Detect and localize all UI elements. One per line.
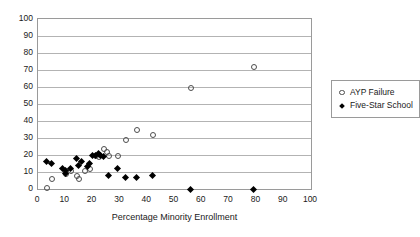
legend-item-label: AYP Failure xyxy=(350,88,395,97)
data-point xyxy=(122,174,129,181)
open-circle-icon xyxy=(337,90,347,96)
scatter-chart: 0102030405060708090100 01020304050607080… xyxy=(0,0,420,237)
y-axis-tick-label: 70 xyxy=(3,65,33,74)
data-point xyxy=(101,146,107,152)
y-axis-tick-label: 40 xyxy=(3,116,33,125)
data-point xyxy=(250,185,257,192)
gridline xyxy=(38,172,311,173)
y-axis-tick-label: 50 xyxy=(3,99,33,108)
y-axis-tick-label: 100 xyxy=(3,14,33,23)
gridline xyxy=(38,121,311,122)
plot-area xyxy=(37,18,312,190)
data-point xyxy=(74,173,80,179)
data-point xyxy=(76,176,82,182)
legend-item-label: Five-Star School xyxy=(350,101,413,110)
y-axis-tick-label: 80 xyxy=(3,48,33,57)
legend-item-five-star-school: Five-Star School xyxy=(337,99,413,112)
y-axis-tick-label: 0 xyxy=(3,184,33,193)
filled-diamond-icon xyxy=(337,104,347,108)
data-point xyxy=(75,162,82,169)
gridline xyxy=(38,104,311,105)
data-point xyxy=(134,127,140,133)
y-axis-tick-label: 90 xyxy=(3,31,33,40)
x-axis-title: Percentage Minority Enrollment xyxy=(37,213,312,222)
chart-legend: AYP Failure Five-Star School xyxy=(331,80,420,118)
data-point xyxy=(43,158,50,165)
y-axis-tick-label: 60 xyxy=(3,82,33,91)
y-axis-tick-label: 30 xyxy=(3,133,33,142)
y-axis-tick-label: 10 xyxy=(3,167,33,176)
data-point xyxy=(48,160,55,167)
data-point xyxy=(49,176,55,182)
data-point xyxy=(44,185,50,191)
x-axis-tick-labels: 0102030405060708090100 xyxy=(37,195,312,207)
legend-item-ayp-failure: AYP Failure xyxy=(337,86,413,99)
gridline xyxy=(38,138,311,139)
gridline xyxy=(38,36,311,37)
gridline xyxy=(38,87,311,88)
data-point xyxy=(187,185,194,192)
data-point xyxy=(78,158,85,165)
gridline xyxy=(38,70,311,71)
x-axis-tick-label: 100 xyxy=(290,195,330,204)
gridline xyxy=(38,155,311,156)
data-point xyxy=(133,174,140,181)
data-point xyxy=(84,163,91,170)
gridline xyxy=(38,53,311,54)
y-axis-tick-labels: 0102030405060708090100 xyxy=(0,18,33,190)
y-axis-tick-label: 20 xyxy=(3,150,33,159)
data-point xyxy=(86,160,93,167)
